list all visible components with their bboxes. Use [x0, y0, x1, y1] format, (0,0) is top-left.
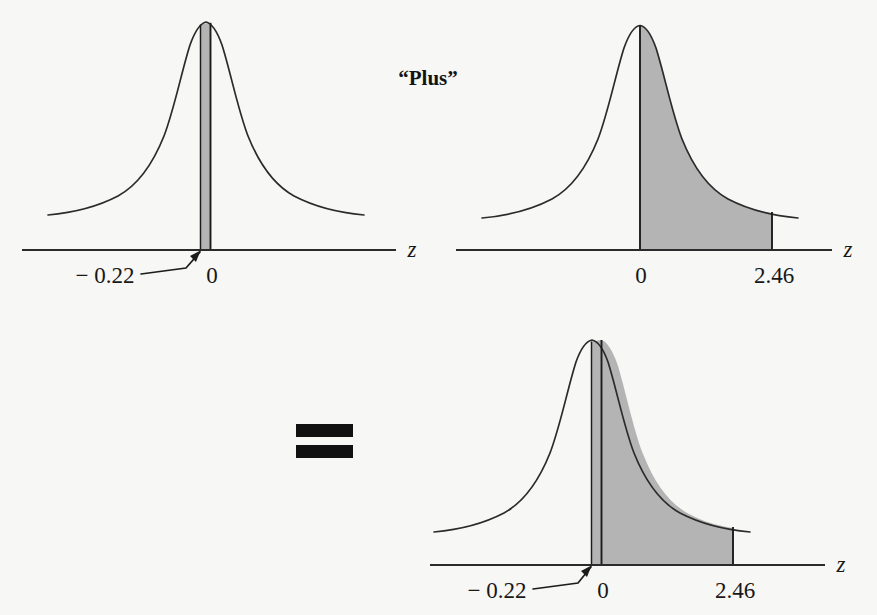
equals-operator-symbol: [296, 424, 353, 458]
plus-operator-label: “Plus”: [398, 66, 458, 90]
bottom-panel-shaded-area: [592, 340, 734, 565]
right-panel: 0 2.46 z: [456, 26, 853, 289]
bottom-panel-leader-arrowhead: [581, 566, 592, 578]
left-panel-tick-label-neg022: − 0.22: [76, 263, 135, 288]
bottom-panel-leader-line: [533, 567, 591, 589]
equals-bar-bottom: [296, 445, 353, 458]
right-panel-axis-variable: z: [843, 237, 853, 262]
left-panel-axis-variable: z: [407, 237, 417, 262]
left-panel-leader-arrowhead: [190, 251, 201, 263]
figure-root: − 0.22 0 z “Plus” 0 2.46 z: [0, 0, 877, 615]
equals-bar-top: [296, 424, 353, 437]
right-panel-tick-label-246: 2.46: [754, 263, 794, 288]
bottom-panel: − 0.22 0 2.46 z: [430, 340, 846, 603]
normal-curve-diagram: − 0.22 0 z “Plus” 0 2.46 z: [0, 0, 877, 615]
left-panel-tick-label-zero: 0: [206, 263, 218, 288]
bottom-panel-tick-label-neg022: − 0.22: [468, 578, 527, 603]
bottom-panel-axis-variable: z: [836, 552, 846, 577]
left-panel-shaded-strip: [201, 23, 211, 250]
left-panel: − 0.22 0 z: [22, 22, 417, 288]
right-panel-tick-label-zero: 0: [635, 263, 647, 288]
bottom-panel-tick-label-246: 2.46: [715, 578, 755, 603]
left-panel-leader-line: [141, 252, 200, 274]
bottom-panel-tick-label-zero: 0: [597, 578, 609, 603]
